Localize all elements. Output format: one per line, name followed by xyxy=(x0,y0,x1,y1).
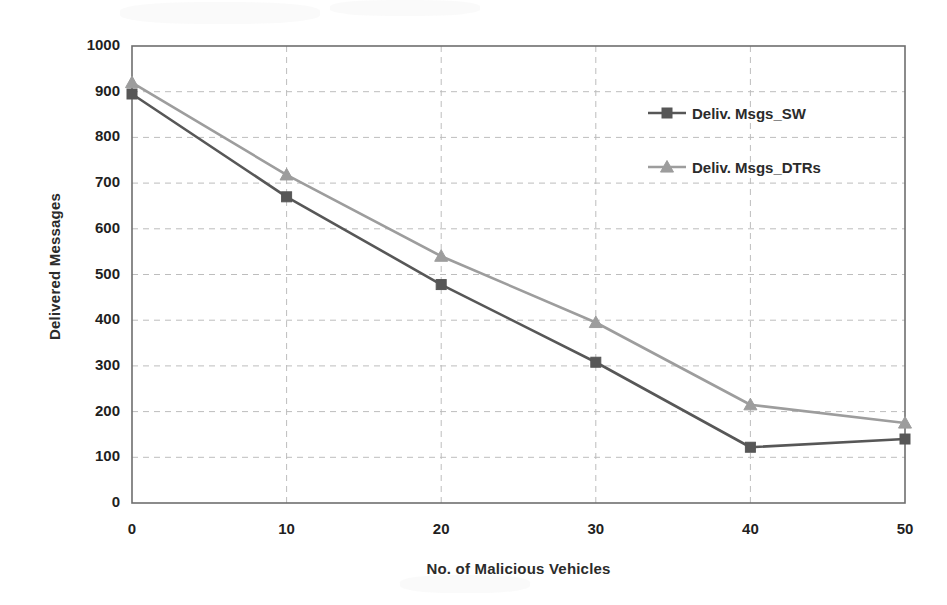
x-tick-label: 50 xyxy=(875,520,935,537)
y-axis-title: Delivered Messages xyxy=(46,157,63,377)
x-tick-label: 40 xyxy=(720,520,780,537)
x-axis-title: No. of Malicious Vehicles xyxy=(132,560,905,577)
x-tick-label: 20 xyxy=(411,520,471,537)
x-axis-tick-labels: 01020304050 xyxy=(0,0,947,605)
x-tick-label: 0 xyxy=(102,520,162,537)
x-tick-label: 30 xyxy=(566,520,626,537)
line-chart: Deliv. Msgs_SWDeliv. Msgs_DTRs 010020030… xyxy=(0,0,947,605)
x-tick-label: 10 xyxy=(257,520,317,537)
